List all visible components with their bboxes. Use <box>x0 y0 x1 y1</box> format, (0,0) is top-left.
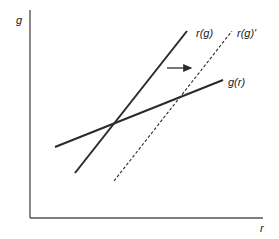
y-axis-label: g <box>16 14 23 26</box>
curve-r-of-g-shifted-label: r(g)' <box>237 27 257 39</box>
diagram: g r r(g) r(g)' g(r) <box>0 0 279 239</box>
curve-g-of-r-label: g(r) <box>228 76 245 88</box>
x-axis-label: r <box>260 222 265 234</box>
curve-r-of-g-shifted <box>114 31 232 181</box>
curve-g-of-r <box>55 80 223 147</box>
curve-r-of-g-label: r(g) <box>196 27 213 39</box>
